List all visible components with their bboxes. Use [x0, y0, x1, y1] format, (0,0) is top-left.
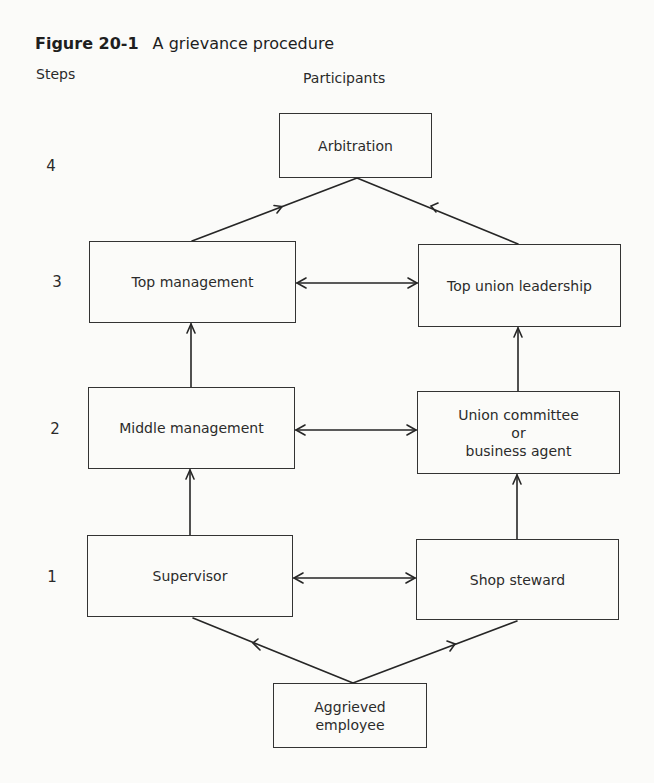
node-label: Shop steward [470, 571, 565, 589]
node-middle-management: Middle management [88, 387, 295, 469]
node-label-line2: or [511, 424, 525, 442]
node-label-line3: business agent [466, 442, 572, 460]
node-label: Top management [132, 273, 254, 291]
node-arbitration: Arbitration [279, 113, 432, 178]
node-supervisor: Supervisor [87, 535, 293, 617]
node-top-management: Top management [89, 241, 296, 323]
edge-employee-steward [353, 621, 517, 683]
node-label: Supervisor [153, 567, 228, 585]
node-label: Top union leadership [447, 277, 592, 295]
node-label: Middle management [119, 419, 263, 437]
node-label-line1: Union committee [458, 406, 579, 424]
node-label-line1: Aggrieved [314, 698, 385, 716]
node-union-committee: Union committee or business agent [417, 391, 620, 474]
edge-topmgmt-arbitration [192, 178, 357, 241]
edge-topunion-arbitration [357, 178, 518, 244]
node-label: Arbitration [318, 137, 393, 155]
node-top-union-leadership: Top union leadership [418, 244, 621, 327]
node-shop-steward: Shop steward [416, 539, 619, 620]
node-aggrieved-employee: Aggrieved employee [273, 683, 427, 748]
node-label-line2: employee [315, 716, 384, 734]
edge-employee-supervisor [193, 618, 353, 683]
